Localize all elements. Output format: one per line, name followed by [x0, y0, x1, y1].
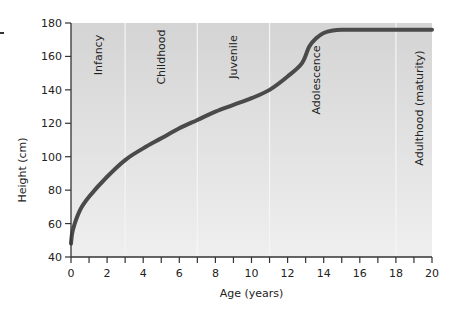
- y-tick-label: 180: [41, 17, 62, 30]
- x-tick-label: 2: [104, 267, 111, 280]
- y-tick-label: 60: [48, 218, 62, 231]
- x-tick-label: 14: [317, 267, 331, 280]
- stage-label: Adolescence: [310, 45, 323, 114]
- y-axis-title: Height (cm): [16, 137, 29, 202]
- y-tick-label: 80: [48, 184, 62, 197]
- y-tick-label: 160: [41, 50, 62, 63]
- x-tick-label: 16: [353, 267, 367, 280]
- y-tick-label: 120: [41, 117, 62, 130]
- x-axis-title: Age (years): [220, 287, 284, 300]
- y-tick-label: 140: [41, 84, 62, 97]
- x-tick-label: 18: [389, 267, 403, 280]
- x-tick-label: 10: [245, 267, 259, 280]
- x-tick-label: 4: [140, 267, 147, 280]
- y-tick-label: 40: [48, 251, 62, 264]
- stage-label: Childhood: [155, 29, 168, 84]
- growth-chart: InfancyChildhoodJuvenileAdolescenceAdult…: [0, 0, 457, 310]
- x-tick-label: 20: [425, 267, 439, 280]
- stage-label: Juvenile: [227, 35, 240, 80]
- stage-label: Infancy: [92, 34, 105, 75]
- stage-label: Adulthood (maturity): [413, 50, 426, 165]
- x-tick-label: 6: [176, 267, 183, 280]
- x-tick-label: 12: [281, 267, 295, 280]
- x-tick-label: 0: [68, 267, 75, 280]
- y-tick-label: 100: [41, 151, 62, 164]
- x-tick-label: 8: [212, 267, 219, 280]
